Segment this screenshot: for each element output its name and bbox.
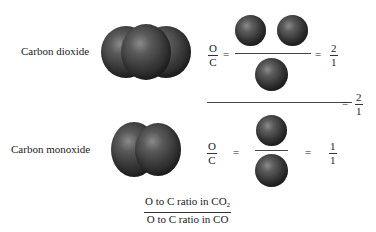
oxygen-symbol: O bbox=[208, 43, 218, 54]
numerator-text: O to C ratio in CO bbox=[145, 195, 227, 207]
combined-ratio-result: 2 1 bbox=[355, 92, 363, 117]
carbon-dioxide-label: Carbon dioxide bbox=[21, 45, 89, 57]
carbon-symbol: C bbox=[208, 57, 217, 68]
fraction-numerator: O to C ratio in CO2 bbox=[144, 196, 231, 211]
atom-fraction-bar bbox=[235, 53, 311, 54]
subscript: 2 bbox=[227, 201, 231, 209]
oxygen-atom bbox=[135, 123, 181, 176]
co2-ratio-result: 2 1 bbox=[330, 43, 338, 68]
carbon-monoxide-molecule bbox=[111, 122, 181, 177]
carbon-monoxide-label: Carbon monoxide bbox=[11, 143, 90, 155]
co-oc-label: O C bbox=[207, 141, 217, 166]
equals-sign: = bbox=[305, 147, 311, 158]
numerator: 1 bbox=[329, 141, 337, 152]
atom-fraction-bar bbox=[255, 150, 288, 151]
carbon-symbol: C bbox=[207, 155, 216, 166]
carbon-atom-ball bbox=[255, 58, 288, 91]
equals-sign: = bbox=[233, 147, 239, 158]
ratio-of-ratios-fraction: O to C ratio in CO2 O to C ratio in CO bbox=[144, 196, 231, 225]
oxygen-atom-ball bbox=[235, 15, 266, 46]
oxygen-symbol: O bbox=[207, 141, 217, 152]
carbon-dioxide-molecule bbox=[101, 24, 191, 80]
denominator: 1 bbox=[355, 106, 363, 117]
numerator: 2 bbox=[355, 92, 363, 103]
carbon-atom-ball bbox=[255, 154, 288, 187]
oxygen-atom-ball bbox=[256, 115, 287, 146]
equals-sign: = bbox=[315, 49, 321, 60]
denominator: 1 bbox=[329, 155, 337, 166]
oxygen-atom-ball bbox=[277, 15, 308, 46]
ratio-comparison-bar bbox=[207, 102, 352, 103]
co2-oc-label: O C bbox=[208, 43, 218, 68]
equals-sign: = bbox=[342, 98, 348, 109]
equals-sign: = bbox=[223, 49, 229, 60]
denominator: 1 bbox=[330, 57, 338, 68]
numerator: 2 bbox=[330, 43, 338, 54]
fraction-denominator: O to C ratio in CO bbox=[146, 214, 230, 225]
co-ratio-result: 1 1 bbox=[329, 141, 337, 166]
carbon-atom bbox=[121, 24, 171, 80]
